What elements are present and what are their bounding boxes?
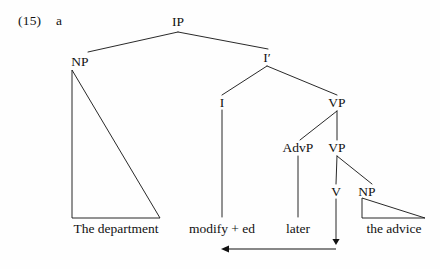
triangle-np-the-department xyxy=(72,70,160,218)
arrowhead-left-icon xyxy=(221,245,229,252)
node-ip: IP xyxy=(172,15,184,29)
terminal-later: later xyxy=(286,222,310,236)
triangle-np-the-advice xyxy=(362,198,425,218)
terminal-modify-ed: modify + ed xyxy=(189,222,255,236)
node-np-subject: NP xyxy=(71,55,88,69)
branch-vp-np xyxy=(337,156,372,184)
figure-canvas: (15) a IP NP I′ I VP AdvP VP V NP The de… xyxy=(0,0,440,269)
branch-ip-ibar xyxy=(178,32,268,49)
node-vp-outer: VP xyxy=(328,96,345,110)
node-vp-inner: VP xyxy=(328,141,345,155)
branch-vp-advp xyxy=(300,111,337,140)
tree-branches xyxy=(88,32,372,241)
branch-vp-v xyxy=(336,156,337,184)
node-np-object: NP xyxy=(358,185,375,199)
node-i: I xyxy=(220,96,225,110)
arrowhead-down-icon xyxy=(332,239,339,245)
node-v: V xyxy=(331,185,341,199)
branch-ibar-vp xyxy=(267,66,337,95)
example-number: (15) xyxy=(18,14,41,28)
branch-ip-np xyxy=(88,32,178,52)
terminal-the-advice: the advice xyxy=(366,222,421,236)
node-advp: AdvP xyxy=(283,141,314,155)
branch-ibar-i xyxy=(222,66,267,95)
node-i-bar: I′ xyxy=(263,51,270,65)
movement-arrow xyxy=(221,239,340,253)
example-letter: a xyxy=(56,14,62,28)
terminal-the-department: The department xyxy=(73,222,158,236)
